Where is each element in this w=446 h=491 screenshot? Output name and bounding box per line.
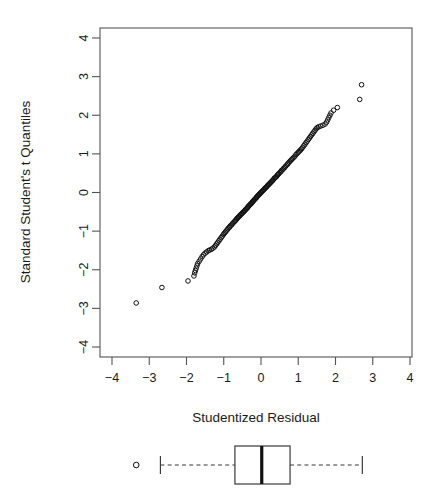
y-tick-label: 3 <box>77 73 91 80</box>
x-tick-label: −3 <box>142 371 156 385</box>
x-tick-label: 4 <box>407 371 414 385</box>
x-tick-label: −1 <box>217 371 231 385</box>
x-tick-label: −4 <box>105 371 119 385</box>
y-tick-label: 0 <box>77 189 91 196</box>
x-tick-label: 0 <box>258 371 265 385</box>
x-axis-title: Studentized Residual <box>192 410 320 425</box>
qq-plot-figure: −4−3−2−101234 −4−3−2−101234 Standard Stu… <box>0 0 446 491</box>
x-tick-label: 3 <box>369 371 376 385</box>
y-tick-label: 4 <box>77 34 91 41</box>
x-tick-label: 2 <box>332 371 339 385</box>
x-tick-label: 1 <box>295 371 302 385</box>
y-tick-label: −3 <box>77 301 91 315</box>
y-tick-label: −1 <box>77 224 91 238</box>
x-tick-label: −2 <box>179 371 193 385</box>
y-axis-title: Standard Student's t Quantiles <box>18 100 33 283</box>
plot-canvas: −4−3−2−101234 −4−3−2−101234 Standard Stu… <box>0 0 446 491</box>
y-tick-label: 1 <box>77 150 91 157</box>
y-tick-label: −2 <box>77 263 91 277</box>
y-tick-label: −4 <box>77 340 91 354</box>
y-tick-label: 2 <box>77 112 91 119</box>
